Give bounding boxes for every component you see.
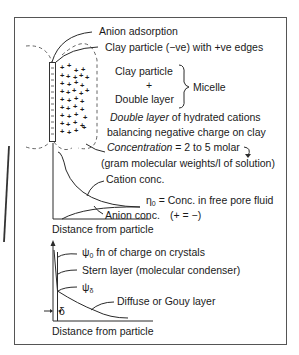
cation-leader	[87, 181, 104, 196]
cation-mark: +	[85, 73, 90, 82]
balancing-charge-label: balancing negative charge on clay	[107, 126, 267, 138]
conc-x-axis-label: Distance from particle	[52, 223, 154, 235]
micelle-clay-particle: Clay particle	[115, 65, 173, 77]
micelle-brace	[179, 65, 189, 108]
cation-mark: +	[85, 86, 90, 95]
margin-stroke	[4, 146, 9, 242]
cation-mark: +	[82, 123, 87, 132]
double-layer-diagram: ++++++++++++++++++++++++++++++++++++++ A…	[0, 0, 299, 355]
anion-adsorption-leader	[52, 32, 92, 62]
concentration-label: Concentration = 2 to 5 molar	[107, 141, 240, 153]
micelle-label: Micelle	[193, 81, 226, 93]
micelle-plus: +	[146, 79, 152, 91]
psi0-leader	[58, 254, 77, 257]
gram-molecular-label: (gram molecular weights/l of solution)	[101, 157, 275, 169]
anion-conc-label: Anion conc.	[105, 209, 160, 221]
diffuse-leader	[91, 302, 114, 310]
equal-charge-note: (+ = −)	[170, 209, 201, 221]
cation-mark: +	[79, 71, 84, 80]
psi-delta-leader	[58, 287, 77, 291]
delta-label: δ	[59, 305, 65, 317]
cation-mark: +	[67, 128, 72, 137]
cation-mark: +	[67, 61, 72, 70]
potential-x-axis-label: Distance from particle	[52, 325, 154, 337]
cation-conc-label: Cation conc.	[106, 173, 164, 185]
anion-adsorption-label: Anion adsorption	[99, 25, 178, 37]
cation-mark: +	[74, 126, 79, 135]
cation-mark: +	[60, 127, 65, 136]
anion-leader	[94, 206, 103, 214]
diffuse-layer-label: Diffuse or Gouy layer	[117, 295, 216, 307]
eta0-label: η0 = Conc. in free pore fluid	[146, 194, 274, 207]
potential-y-arrowhead	[51, 240, 56, 246]
stern-linear-drop	[54, 250, 58, 291]
stern-leader	[58, 270, 77, 274]
stern-layer-label: Stern layer (molecular condenser)	[82, 264, 240, 276]
psi-delta-label: ψδ	[82, 281, 94, 294]
clay-particle-edges-label: Clay particle (−ve) with +ve edges	[105, 41, 263, 53]
clay-particle: ++++++++++++++++++++++++++++++++++++++	[50, 61, 91, 142]
double-layer-description: Double layer of hydrated cations	[110, 111, 261, 123]
psi0-label: ψ0 fn of charge on crystals	[82, 246, 205, 259]
micelle-double-layer: Double layer	[115, 93, 174, 105]
